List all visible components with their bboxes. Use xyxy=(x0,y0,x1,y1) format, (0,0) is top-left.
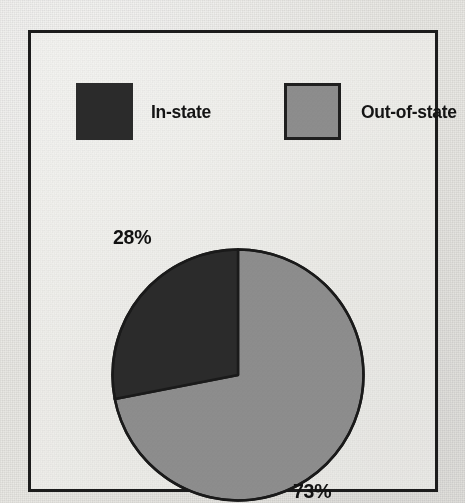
chart-frame-border: In-state Out-of-state 28% 73% xyxy=(28,30,438,492)
pie-slice-in-state xyxy=(113,250,238,399)
pie-value-label-in-state: 28% xyxy=(113,225,151,249)
pie-chart-svg xyxy=(111,248,365,502)
legend-swatch-out-of-state xyxy=(284,83,341,140)
legend-swatch-in-state xyxy=(76,83,133,140)
legend-label-out-of-state: Out-of-state xyxy=(361,101,457,123)
chart-page: In-state Out-of-state 28% 73% xyxy=(0,0,465,503)
pie-value-label-out-of-state: 73% xyxy=(293,479,331,503)
legend-label-in-state: In-state xyxy=(151,101,211,123)
pie-chart xyxy=(111,248,365,502)
